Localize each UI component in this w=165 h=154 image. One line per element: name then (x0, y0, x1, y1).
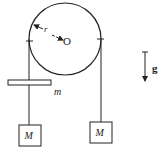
radius-arrow-outer (34, 25, 43, 29)
radius-label: r (44, 24, 48, 34)
bar-label: m (54, 86, 61, 97)
pulley-diagram: r O m M M g (0, 0, 165, 154)
radius-arrow-inner (52, 35, 63, 40)
bar-m (8, 80, 51, 85)
right-mass-label: M (95, 127, 105, 138)
diagram-svg: r O m M M g (0, 0, 165, 154)
center-label: O (63, 35, 71, 47)
left-mass-label: M (24, 130, 34, 141)
gravity-label: g (152, 62, 158, 74)
